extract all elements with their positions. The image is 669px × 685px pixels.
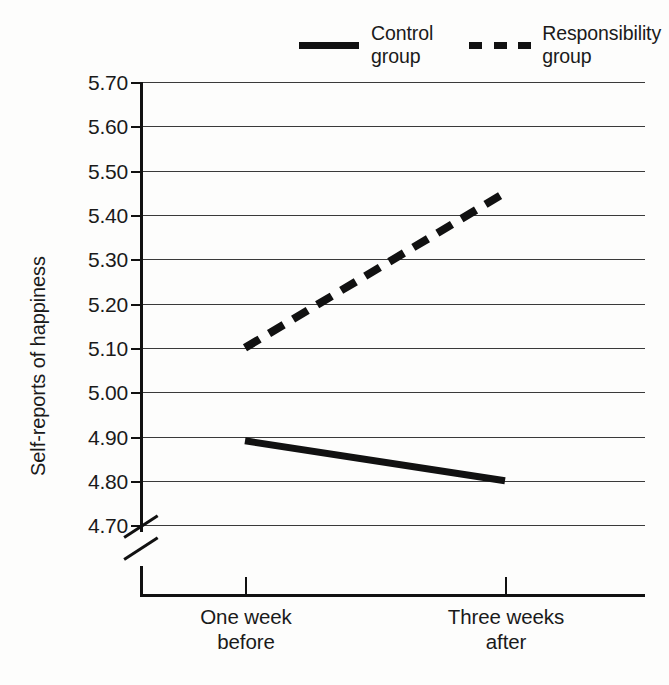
y-tick-mark-520 [131,304,142,306]
y-tick-label-530: 5.30 [58,249,128,270]
gridline-470 [143,525,645,526]
legend-label-control: Control group [371,22,433,68]
y-tick-mark-560 [131,126,142,128]
y-tick-mark-550 [131,171,142,173]
y-tick-label-480: 4.80 [58,471,128,492]
y-tick-mark-530 [131,259,142,261]
y-tick-label-520: 5.20 [58,294,128,315]
gridline-530 [143,259,645,260]
y-axis-title: Self-reports of happiness [27,211,49,521]
gridline-540 [143,215,645,216]
y-tick-label-490: 4.90 [58,427,128,448]
y-tick-label-500: 5.00 [58,382,128,403]
x-tick-mark-one-week-before [245,577,247,596]
legend-entry-control: Control group [296,22,433,68]
plot-area [143,82,645,525]
x-axis-stub [140,566,143,596]
gridline-560 [143,126,645,127]
y-tick-label-570: 5.70 [58,72,128,93]
gridline-490 [143,437,645,438]
legend-entry-responsibility: Responsibility group [467,22,661,68]
gridline-520 [143,304,645,305]
y-tick-mark-510 [131,348,142,350]
gridline-570 [143,82,645,83]
y-tick-label-560: 5.60 [58,116,128,137]
x-tick-mark-three-weeks-after [505,577,507,596]
y-axis-line [140,82,143,532]
y-tick-mark-480 [131,481,142,483]
x-tick-label-one-week-before: One week before [151,604,341,654]
gridline-500 [143,392,645,393]
chart-figure: Control group Responsibility group Self-… [0,0,669,685]
dashed-line-swatch-icon [467,25,533,65]
y-tick-mark-500 [131,392,142,394]
solid-line-swatch-icon [296,25,362,65]
y-tick-label-540: 5.40 [58,205,128,226]
x-axis-line [140,594,645,597]
y-tick-label-470: 4.70 [58,515,128,536]
y-tick-label-550: 5.50 [58,161,128,182]
gridline-480 [143,481,645,482]
y-tick-labels: 5.70 5.60 5.50 5.40 5.30 5.20 5.10 5.00 … [48,0,128,685]
y-tick-mark-540 [131,215,142,217]
legend-label-responsibility: Responsibility group [542,22,661,68]
x-tick-label-three-weeks-after: Three weeks after [411,604,601,654]
y-tick-mark-490 [131,437,142,439]
gridline-510 [143,348,645,349]
gridline-550 [143,171,645,172]
chart-legend: Control group Responsibility group [296,22,656,74]
axis-break-icon [124,528,172,576]
y-tick-mark-570 [131,82,142,84]
y-tick-label-510: 5.10 [58,338,128,359]
